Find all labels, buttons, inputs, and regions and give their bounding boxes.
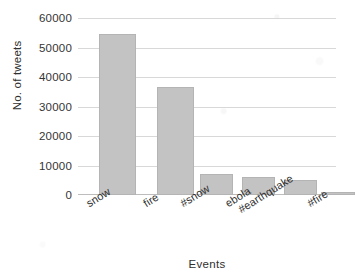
y-axis-tick-label: 30000 — [12, 102, 72, 113]
y-axis-tick-label: 40000 — [12, 72, 72, 83]
y-axis-tick-label: 10000 — [12, 161, 72, 172]
y-axis-tick-label: 60000 — [12, 13, 72, 24]
gridline-60000 — [78, 18, 336, 19]
y-axis-tick-label: 0 — [12, 190, 72, 201]
x-axis-title: Events — [78, 258, 336, 270]
y-axis-tick-label: 50000 — [12, 43, 72, 54]
bar-fire — [157, 87, 194, 195]
y-axis-tick-label: 20000 — [12, 131, 72, 142]
plot-area — [78, 18, 336, 195]
bar-chart: No. of tweets 60000 50000 40000 30000 20… — [0, 0, 355, 278]
bar-snow — [99, 34, 136, 195]
